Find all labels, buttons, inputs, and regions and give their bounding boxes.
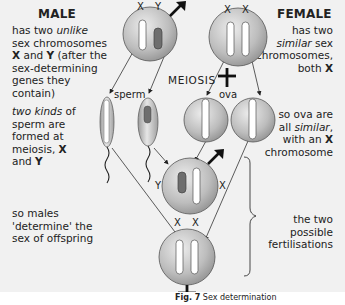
male-parent-cell: X Y: [123, 1, 186, 61]
ova-label: ova: [219, 89, 237, 100]
chrom-label-y: Y: [154, 1, 162, 12]
fertilisations-brace: [244, 157, 256, 276]
male-offspring-cell: Y X: [154, 149, 226, 214]
chrom-label-x: X: [174, 217, 181, 228]
female-parent-cell: X X: [209, 4, 267, 87]
female-symbol-icon: [178, 285, 196, 292]
chrom-label-x: X: [242, 4, 249, 15]
ovum-2: [231, 98, 275, 142]
female-symbol-icon: [218, 68, 236, 87]
figure-caption: Fig. 7 Sex determination: [175, 293, 277, 302]
x-chromosome: [242, 22, 249, 56]
y-chromosome: [154, 28, 162, 49]
chrom-label-x: X: [137, 1, 144, 12]
sperm-y: [138, 98, 158, 182]
ovum-1: [184, 98, 228, 142]
chrom-label-x: X: [219, 180, 226, 191]
chrom-label-x: X: [192, 217, 199, 228]
x-chromosome: [227, 22, 234, 56]
chrom-label-x: X: [224, 4, 231, 15]
meiosis-label: MEIOSIS: [168, 74, 216, 86]
chrom-label-y: Y: [154, 180, 162, 191]
sperm-x: [100, 97, 114, 183]
male-symbol-icon: [170, 1, 186, 16]
x-chromosome: [139, 20, 146, 50]
sperm-label: sperm: [114, 89, 145, 100]
male-symbol-icon: [208, 149, 224, 164]
sperm-tail: [105, 147, 109, 183]
female-offspring-cell: X X: [159, 217, 215, 292]
sperm-tail: [146, 146, 150, 182]
sex-determination-diagram: X Y X X MEIOSIS sperm ova: [0, 0, 345, 292]
